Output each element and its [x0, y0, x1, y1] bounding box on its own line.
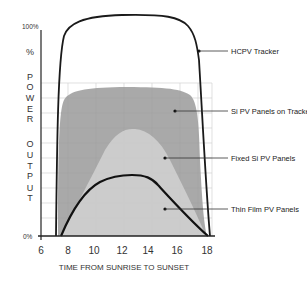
svg-text:8: 8: [65, 245, 71, 256]
y-top-label: 100%: [22, 23, 39, 30]
svg-text:O: O: [26, 82, 33, 92]
legend-hcpv-tracker: HCPV Tracker: [197, 47, 279, 56]
svg-text:14: 14: [142, 245, 154, 256]
svg-text:T: T: [27, 161, 33, 171]
svg-text:6: 6: [38, 245, 44, 256]
svg-text:Thin Film PV Panels: Thin Film PV Panels: [231, 205, 299, 214]
svg-text:T: T: [27, 193, 33, 203]
svg-text:Fixed Si PV Panels: Fixed Si PV Panels: [231, 154, 295, 163]
svg-text:O: O: [26, 139, 33, 149]
svg-text:R: R: [27, 114, 34, 124]
power-output-chart: 100% 0% % P O W E R O U T P U T 6 8 10 1…: [0, 0, 307, 284]
svg-text:E: E: [27, 104, 33, 114]
svg-text:P: P: [27, 171, 33, 181]
svg-text:10: 10: [88, 245, 100, 256]
svg-text:U: U: [27, 183, 34, 193]
y-bottom-label: 0%: [23, 233, 33, 240]
svg-text:18: 18: [201, 245, 213, 256]
svg-text:Si PV Panels on Tracker: Si PV Panels on Tracker: [231, 107, 307, 116]
svg-text:W: W: [26, 93, 35, 103]
svg-text:%: %: [26, 47, 34, 57]
y-axis-title: % P O W E R O U T P U T: [26, 47, 35, 203]
svg-text:U: U: [27, 150, 34, 160]
svg-text:P: P: [27, 72, 33, 82]
svg-text:12: 12: [116, 245, 128, 256]
svg-text:16: 16: [171, 245, 183, 256]
svg-text:HCPV Tracker: HCPV Tracker: [231, 47, 279, 56]
x-axis-title: TIME FROM SUNRISE TO SUNSET: [59, 263, 189, 272]
x-tick-labels: 6 8 10 12 14 16 18: [38, 245, 213, 256]
